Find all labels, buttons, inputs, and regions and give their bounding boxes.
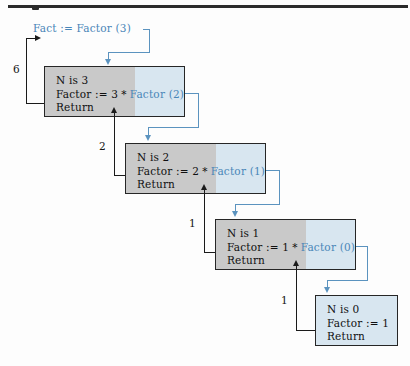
call-n2-to-n1-arrowhead-icon [232, 211, 238, 217]
call-n3-to-n2-connector-h1 [185, 93, 199, 94]
figure-canvas: Fact := Factor (3) 6 N is 3 Factor := 3*… [0, 0, 410, 366]
frame-n3-assignment: Factor := 3 [56, 88, 118, 100]
call-n3-to-n2-connector-v1 [198, 93, 199, 128]
frame-n1: N is 1 Factor := 1*Factor (0) Return [215, 219, 356, 270]
return-2-connector-v [114, 113, 115, 176]
return-value-2: 2 [99, 140, 106, 152]
frame-n1-recursive-call: Factor (0) [301, 241, 356, 253]
frame-n2-assignment: Factor := 2 [137, 165, 199, 177]
frame-n1-operator: * [289, 241, 300, 253]
call-n3-to-n2-connector-h2 [148, 127, 199, 128]
frame-n0-assignment: Factor := 1 [327, 317, 389, 329]
frame-n0-line-3: Return [327, 330, 397, 344]
frame-n3-line-3: Return [56, 101, 184, 115]
return-1b-connector-h1 [296, 330, 316, 331]
return-6-connector-v [26, 38, 27, 104]
initial-call-arrowhead-icon [105, 59, 111, 65]
frame-n1-line-2: Factor := 1*Factor (0) [227, 241, 355, 255]
return-6-connector-h1 [26, 103, 45, 104]
frame-n0-line-1: N is 0 [327, 303, 397, 317]
call-n3-to-n2-arrowhead-icon [145, 135, 151, 141]
frame-n2-line-1: N is 2 [137, 151, 265, 165]
return-1a-arrowhead-icon [201, 184, 207, 190]
frame-n1-line-1: N is 1 [227, 227, 355, 241]
return-1a-connector-h1 [204, 252, 215, 253]
call-n1-to-n0-arrowhead-icon [324, 287, 330, 293]
return-2-arrowhead-icon [111, 107, 117, 113]
frame-n0-operator [389, 317, 395, 329]
frame-n2-operator: * [199, 165, 210, 177]
return-value-1-to-n2: 1 [189, 217, 196, 229]
return-1a-connector-v [204, 190, 205, 253]
frame-n3-line-2: Factor := 3*Factor (2) [56, 88, 184, 102]
call-n1-to-n0-connector-h2 [327, 280, 368, 281]
frame-n3-recursive-call: Factor (2) [130, 88, 185, 100]
return-value-1-to-n1: 1 [281, 294, 288, 306]
frame-n0-line-2: Factor := 1 [327, 317, 397, 331]
return-value-6: 6 [13, 63, 20, 75]
return-1b-arrowhead-icon [293, 260, 299, 266]
frame-n1-assignment: Factor := 1 [227, 241, 289, 253]
frame-n2-recursive-call: Factor (1) [211, 165, 266, 177]
frame-n3-line-1: N is 3 [56, 74, 184, 88]
initial-call-label: Fact := Factor (3) [33, 22, 131, 34]
initial-call-connector-v1 [149, 29, 150, 53]
page-rule-marker [32, 5, 39, 10]
return-6-arrowhead-icon [35, 35, 41, 41]
frame-n0: N is 0 Factor := 1 Return [315, 295, 398, 346]
call-n2-to-n1-connector-v1 [279, 170, 280, 205]
call-n2-to-n1-connector-h1 [266, 170, 280, 171]
frame-n2-line-2: Factor := 2*Factor (1) [137, 165, 265, 179]
frame-n2: N is 2 Factor := 2*Factor (1) Return [125, 143, 266, 194]
return-1b-connector-v [296, 266, 297, 331]
initial-call-connector-h2 [108, 52, 150, 53]
page-rule [8, 5, 408, 8]
frame-n1-line-3: Return [227, 254, 355, 268]
return-2-connector-h1 [114, 175, 125, 176]
call-n2-to-n1-connector-h2 [235, 204, 280, 205]
call-n1-to-n0-connector-v1 [367, 246, 368, 281]
frame-n3-operator: * [118, 88, 129, 100]
